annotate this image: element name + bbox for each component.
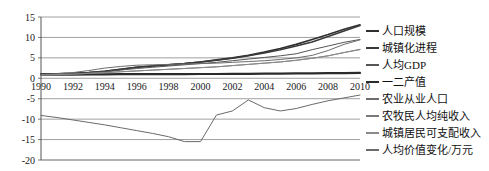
y-tick-label: -20 [22, 155, 35, 166]
legend-item[interactable]: 城镇化进程 [366, 39, 489, 56]
legend-item[interactable]: 一二产值 [366, 73, 489, 90]
legend-line-swatch-icon [366, 149, 379, 151]
legend-line-swatch-icon [366, 47, 379, 49]
legend-item-label: 人均GDP [382, 59, 426, 71]
legend-item[interactable]: 人口规模 [366, 22, 489, 39]
y-tick-label: -10 [22, 114, 35, 125]
x-axis-tick-labels: 1990199219941996199820002002200420062008… [31, 81, 370, 92]
chart-legend: 人口规模城镇化进程人均GDP一二产值农业从业人口农牧民人均纯收入城镇居民可支配收… [366, 22, 489, 158]
legend-item-label: 农牧民人均纯收入 [382, 110, 470, 122]
y-tick-label: -15 [22, 134, 35, 145]
legend-item-label: 城镇居民可支配收入 [382, 127, 481, 139]
x-tick-label: 2002 [222, 81, 242, 92]
legend-item[interactable]: 城镇居民可支配收入 [366, 124, 489, 141]
series-line-8 [41, 95, 360, 142]
legend-item[interactable]: 农业从业人口 [366, 90, 489, 107]
legend-item-label: 农业从业人口 [382, 93, 448, 105]
legend-line-swatch-icon [366, 115, 379, 117]
series-line-3 [41, 39, 360, 74]
x-tick-label: 1992 [63, 81, 83, 92]
legend-item[interactable]: 人均价值变化/万元 [366, 141, 489, 158]
y-tick-label: 15 [25, 12, 35, 23]
x-tick-label: 1996 [127, 81, 147, 92]
legend-item-label: 一二产值 [382, 76, 426, 88]
legend-line-swatch-icon [366, 30, 379, 32]
legend-line-swatch-icon [366, 64, 379, 66]
legend-line-swatch-icon [366, 132, 379, 134]
series-line-5 [41, 40, 360, 75]
x-tick-label: 2004 [254, 81, 274, 92]
legend-item[interactable]: 农牧民人均纯收入 [366, 107, 489, 124]
legend-item-label: 人均价值变化/万元 [382, 144, 473, 156]
legend-line-swatch-icon [366, 98, 379, 100]
x-tick-label: 2000 [191, 81, 211, 92]
x-tick-label: 2008 [318, 81, 338, 92]
legend-item-label: 城镇化进程 [382, 42, 437, 54]
x-tick-label: 1998 [159, 81, 179, 92]
chart-container: 151050-5-10-15-20 1990199219941996199820… [0, 0, 489, 171]
y-tick-label: -5 [27, 93, 35, 104]
legend-line-swatch-icon [366, 81, 379, 83]
y-tick-label: 10 [25, 32, 35, 43]
legend-item-label: 人口规模 [382, 25, 426, 37]
x-tick-label: 1994 [95, 81, 115, 92]
x-tick-label: 2006 [286, 81, 306, 92]
y-tick-label: 5 [30, 52, 35, 63]
legend-item[interactable]: 人均GDP [366, 56, 489, 73]
